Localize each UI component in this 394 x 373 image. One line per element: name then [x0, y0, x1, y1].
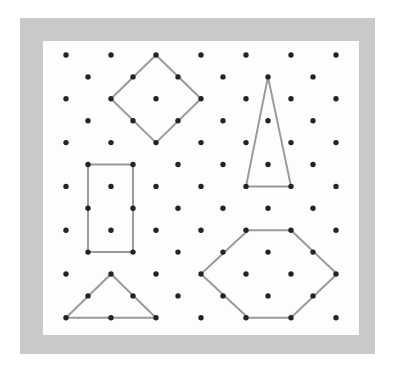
grid-dot — [220, 249, 225, 254]
grid-dot — [288, 140, 293, 145]
grid-dot — [265, 249, 270, 254]
grid-dot — [108, 140, 113, 145]
grid-dot — [85, 249, 90, 254]
grid-dot — [175, 162, 180, 167]
grid-dot — [288, 96, 293, 101]
grid-dot — [265, 118, 270, 123]
grid-dot — [243, 52, 248, 57]
grid-dot — [130, 162, 135, 167]
grid-dot — [85, 118, 90, 123]
grid-dot — [288, 271, 293, 276]
grid-dot — [85, 293, 90, 298]
grid-dot — [198, 315, 203, 320]
grid-dot — [288, 315, 293, 320]
vertical-rectangle — [88, 165, 133, 253]
grid-dot — [153, 140, 158, 145]
grid-dot — [265, 293, 270, 298]
grid-dot — [198, 271, 203, 276]
grid-dot — [310, 118, 315, 123]
grid-dot — [153, 96, 158, 101]
geoboard-figure — [0, 0, 394, 373]
grid-dot — [288, 228, 293, 233]
grid-dot — [220, 162, 225, 167]
grid-dot — [310, 74, 315, 79]
grid-dot — [333, 52, 338, 57]
grid-dot — [220, 293, 225, 298]
grid-dot — [198, 184, 203, 189]
grid-dot — [333, 315, 338, 320]
grid-dot — [130, 74, 135, 79]
grid-dot — [333, 140, 338, 145]
grid-dot — [63, 52, 68, 57]
grid-dot — [310, 162, 315, 167]
grid-dot — [63, 271, 68, 276]
grid-dot — [333, 271, 338, 276]
grid-dot — [265, 74, 270, 79]
grid-dot — [153, 271, 158, 276]
grid-dot — [130, 293, 135, 298]
grid-dot — [153, 184, 158, 189]
grid-dot — [220, 206, 225, 211]
grid-dot — [310, 249, 315, 254]
grid-dot — [63, 315, 68, 320]
grid-dot — [265, 162, 270, 167]
grid-dot — [198, 52, 203, 57]
grid-dot — [153, 315, 158, 320]
wide-isosceles-triangle — [66, 274, 156, 318]
grid-dot — [333, 96, 338, 101]
grid-dot — [288, 184, 293, 189]
grid-dot — [108, 271, 113, 276]
grid-dot — [310, 293, 315, 298]
grid-dot — [85, 206, 90, 211]
grid-dot — [333, 228, 338, 233]
grid-dot — [63, 184, 68, 189]
grid-dot — [108, 228, 113, 233]
grid-dot — [153, 228, 158, 233]
grid-dot — [175, 118, 180, 123]
tall-isosceles-triangle — [246, 77, 291, 186]
grid-dot — [243, 315, 248, 320]
grid-dot — [130, 206, 135, 211]
grid-dot — [85, 74, 90, 79]
grid-dot — [175, 74, 180, 79]
grid-dot — [175, 293, 180, 298]
grid-dot — [108, 315, 113, 320]
shapes-and-dots-layer — [0, 0, 394, 373]
grid-dot — [198, 96, 203, 101]
grid-dot — [220, 118, 225, 123]
grid-dot — [175, 249, 180, 254]
grid-dot — [333, 184, 338, 189]
hexagon — [201, 230, 337, 318]
grid-dot — [243, 228, 248, 233]
grid-dot — [198, 140, 203, 145]
grid-dot — [310, 206, 315, 211]
grid-dot — [130, 118, 135, 123]
grid-dot — [243, 140, 248, 145]
grid-dot — [288, 52, 293, 57]
grid-dot — [243, 96, 248, 101]
grid-dot — [63, 96, 68, 101]
grid-dot — [220, 74, 225, 79]
grid-dot — [198, 228, 203, 233]
grid-dot — [243, 271, 248, 276]
grid-dot — [63, 140, 68, 145]
grid-dot — [85, 162, 90, 167]
grid-dot — [175, 206, 180, 211]
grid-dot — [130, 249, 135, 254]
grid-dot — [153, 52, 158, 57]
grid-dot — [108, 184, 113, 189]
grid-dot — [265, 206, 270, 211]
grid-dot — [108, 96, 113, 101]
grid-dot — [63, 228, 68, 233]
grid-dot — [243, 184, 248, 189]
grid-dot — [108, 52, 113, 57]
